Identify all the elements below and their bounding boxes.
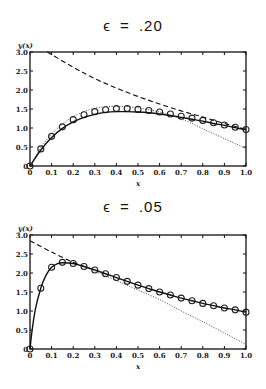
- x-tick-label: 0.4: [110, 168, 122, 177]
- x-tick-label: 0.7: [175, 168, 187, 177]
- x-tick-label: 1.0: [240, 351, 252, 360]
- y-tick-label: 1.5: [16, 105, 28, 114]
- y-axis-label: y(x): [17, 41, 33, 50]
- x-tick-label: 0.6: [154, 351, 166, 360]
- y-tick-label: 2.5: [16, 250, 28, 259]
- x-tick-label: 0.8: [197, 351, 209, 360]
- x-tick-label: 0.2: [67, 351, 79, 360]
- y-tick-label: 2.5: [16, 67, 28, 76]
- series-line-dotted: [84, 267, 246, 345]
- x-tick-label: 0.1: [46, 168, 58, 177]
- y-tick-label: 1.0: [16, 124, 28, 133]
- y-tick-label: 0.5: [16, 326, 28, 335]
- plot-frame: [30, 235, 246, 349]
- series-line-dotted: [30, 106, 246, 166]
- y-axis-label: y(x): [17, 224, 33, 233]
- plot-bottom: 00.10.20.30.40.50.60.70.80.91.000.51.01.…: [16, 224, 252, 371]
- x-tick-label: 0.4: [110, 351, 122, 360]
- x-tick-label: 0.1: [46, 351, 58, 360]
- x-tick-label: 1.0: [240, 168, 252, 177]
- x-tick-label: 0.6: [154, 168, 166, 177]
- series-line-dashed: [47, 52, 246, 130]
- x-tick-label: 0.3: [89, 351, 101, 360]
- x-tick-label: 0.5: [132, 351, 144, 360]
- x-tick-label: 0.2: [67, 168, 79, 177]
- x-tick-label: 0.9: [218, 351, 230, 360]
- y-tick-label: 1.5: [16, 288, 28, 297]
- y-tick-label: 2.0: [16, 269, 28, 278]
- x-tick-label: 0.7: [175, 351, 187, 360]
- series-line-solid: [30, 263, 246, 349]
- charts-canvas: 00.10.20.30.40.50.60.70.80.91.000.51.01.…: [0, 0, 266, 389]
- y-tick-label: 2.0: [16, 86, 28, 95]
- plot-frame: [30, 52, 246, 166]
- y-tick-label: 1.0: [16, 307, 28, 316]
- x-axis-label: x: [135, 362, 141, 371]
- x-tick-label: 0.8: [197, 168, 209, 177]
- x-tick-label: 0.9: [218, 168, 230, 177]
- x-tick-label: 0.5: [132, 168, 144, 177]
- plot-top: 00.10.20.30.40.50.60.70.80.91.000.51.01.…: [16, 41, 252, 188]
- y-tick-label: 0.5: [16, 143, 28, 152]
- x-axis-label: x: [135, 179, 141, 188]
- x-tick-label: 0.3: [89, 168, 101, 177]
